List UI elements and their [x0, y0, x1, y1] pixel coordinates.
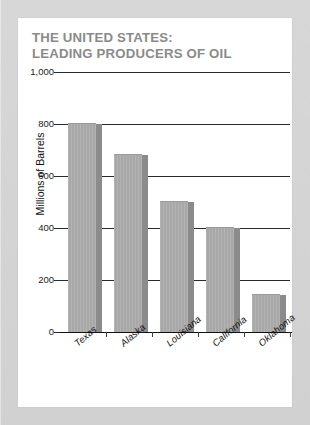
- xtick-mark-1: [106, 332, 107, 337]
- xtick-mark-4: [244, 332, 245, 337]
- bar-front-alaska: [114, 154, 142, 332]
- chart-card: THE UNITED STATES: LEADING PRODUCERS OF …: [18, 18, 292, 407]
- bar-side-texas: [96, 124, 102, 332]
- ytick-600: 600: [18, 171, 54, 181]
- ytick-400: 400: [18, 223, 54, 233]
- plot-area: Millions of Barrels 1,000 800 600 400 20…: [18, 18, 292, 407]
- bar-front-texas: [68, 123, 96, 332]
- bar-side-louisiana: [188, 202, 194, 332]
- ytick-label-1000: 1,000: [20, 67, 54, 77]
- bar-side-alaska: [142, 155, 148, 332]
- bar-series: [60, 72, 292, 332]
- ytick-label-800: 800: [20, 119, 54, 129]
- ytick-200: 200: [18, 275, 54, 285]
- ytick-label-0: 0: [20, 327, 54, 337]
- bar-front-california: [206, 227, 234, 332]
- ytick-label-200: 200: [20, 275, 54, 285]
- xtick-mark-2: [152, 332, 153, 337]
- ytick-1000: 1,000: [18, 67, 54, 77]
- xtick-mark-3: [198, 332, 199, 337]
- xtick-mark-5: [290, 332, 291, 337]
- ytick-800: 800: [18, 119, 54, 129]
- ytick-label-400: 400: [20, 223, 54, 233]
- ytick-label-600: 600: [20, 171, 54, 181]
- bar-front-louisiana: [160, 201, 188, 332]
- ytick-0: 0: [18, 327, 54, 337]
